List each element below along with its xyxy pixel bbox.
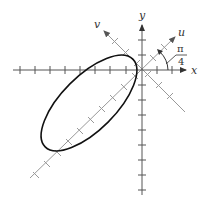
ellipse-curve [26,40,152,166]
v-axis-label: v [94,18,101,31]
angle-denominator: 4 [178,56,184,67]
u-axis-label: u [178,26,185,39]
y-axis [138,25,146,195]
x-axis [13,66,186,74]
angle-numerator: π [177,43,184,54]
x-axis-label: x [191,64,198,77]
y-axis-label: y [138,9,146,22]
angle-label: π 4 [176,43,187,67]
rotated-ellipse-diagram: x y u v π 4 [0,0,208,200]
angle-arc [157,49,176,70]
